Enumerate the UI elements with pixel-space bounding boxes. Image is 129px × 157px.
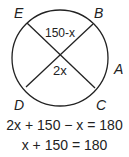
angle-center-label: 2x bbox=[53, 63, 67, 78]
circle-diagram: E B A D C 150-x 2x bbox=[0, 0, 129, 110]
label-e: E bbox=[14, 5, 24, 21]
equation-1: 2x + 150 − x = 180 bbox=[0, 117, 129, 133]
label-b: B bbox=[94, 5, 103, 21]
label-d: D bbox=[14, 97, 24, 110]
circle bbox=[12, 10, 108, 106]
label-c: C bbox=[96, 97, 107, 110]
angle-top-label: 150-x bbox=[45, 26, 75, 40]
label-a: A bbox=[113, 61, 123, 77]
equation-2: x + 150 = 180 bbox=[0, 137, 129, 153]
